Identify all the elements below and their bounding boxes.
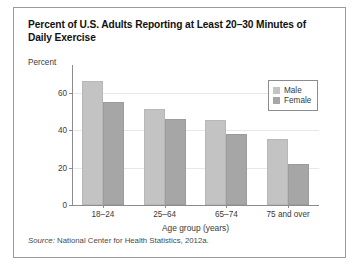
x-tick-mark xyxy=(226,205,227,208)
y-tick-label: 40 xyxy=(58,126,67,135)
source-note: Source: National Center for Health Stati… xyxy=(28,236,209,245)
bar-male-0[interactable] xyxy=(82,81,103,205)
x-tick-mark xyxy=(165,205,166,208)
bar-female-0[interactable] xyxy=(103,102,124,205)
legend-item-male: Male xyxy=(273,86,311,95)
bar-female-1[interactable] xyxy=(165,119,186,205)
legend-item-female: Female xyxy=(273,96,311,105)
legend-label-female: Female xyxy=(284,96,311,105)
legend-swatch-female xyxy=(273,97,280,104)
x-tick-label: 18–24 xyxy=(91,210,114,219)
x-tick-mark xyxy=(288,205,289,208)
bar-male-2[interactable] xyxy=(205,120,226,205)
bar-group xyxy=(144,70,186,205)
x-tick-label: 65–74 xyxy=(215,210,238,219)
y-tick-label: 20 xyxy=(58,163,67,172)
y-axis-title: Percent xyxy=(28,58,56,67)
x-tick-label: 75 and over xyxy=(267,210,310,219)
y-tick-label: 0 xyxy=(62,201,67,210)
legend-swatch-male xyxy=(273,87,280,94)
bar-group xyxy=(82,70,124,205)
bar-female-2[interactable] xyxy=(226,134,247,205)
y-tick-label: 60 xyxy=(58,88,67,97)
bar-female-3[interactable] xyxy=(288,164,309,205)
x-tick-label: 25–64 xyxy=(153,210,176,219)
figure-frame: Percent of U.S. Adults Reporting at Leas… xyxy=(13,7,346,258)
bar-male-1[interactable] xyxy=(144,109,165,205)
chart-title: Percent of U.S. Adults Reporting at Leas… xyxy=(28,18,328,44)
chart-legend: Male Female xyxy=(268,80,318,111)
bar-male-3[interactable] xyxy=(267,139,288,205)
source-label: Source: xyxy=(28,236,55,245)
legend-label-male: Male xyxy=(284,86,302,95)
x-axis-title: Age group (years) xyxy=(72,223,319,233)
bar-group xyxy=(205,70,247,205)
x-tick-mark xyxy=(103,205,104,208)
source-text: National Center for Health Statistics, 2… xyxy=(57,236,209,245)
